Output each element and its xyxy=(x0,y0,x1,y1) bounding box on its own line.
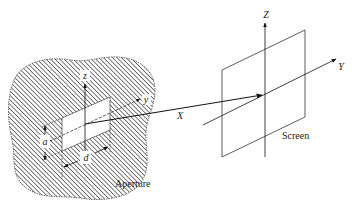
screen-Y-axis xyxy=(203,59,336,125)
aperture-label: Aperture xyxy=(115,178,151,189)
screen-Y-label: Y xyxy=(338,61,345,72)
aperture-y-label: y xyxy=(143,94,149,105)
screen-label: Screen xyxy=(282,130,309,141)
aperture-z-label: z xyxy=(82,70,87,81)
aperture-diffraction-diagram: z y a d Aperture X Z Y Screen xyxy=(0,0,352,208)
aperture-group: z y a d Aperture xyxy=(9,57,156,200)
screen-Z-label: Z xyxy=(263,9,269,20)
screen-group: Z Y Screen xyxy=(203,9,345,157)
ray-X-label: X xyxy=(176,110,184,121)
dimension-a-label: a xyxy=(43,136,48,147)
